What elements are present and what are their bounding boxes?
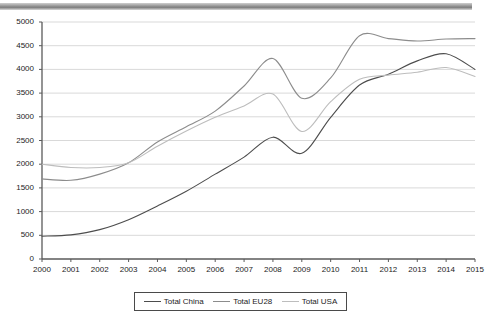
legend-item-eu28[interactable]: Total EU28 [213, 297, 272, 306]
y-axis-tick-label: 500 [4, 231, 34, 239]
legend-label-usa: Total USA [302, 297, 338, 306]
x-axis-tick-label: 2005 [170, 266, 202, 274]
x-axis-tick-label: 2008 [257, 266, 289, 274]
y-axis-tick-label: 3000 [4, 113, 34, 121]
x-axis-tick-label: 2011 [344, 266, 376, 274]
x-axis-tick-label: 2002 [84, 266, 116, 274]
y-axis-tick-label: 0 [4, 255, 34, 263]
x-axis-tick-label: 2014 [430, 266, 462, 274]
series-line-total-china [42, 54, 475, 237]
legend-swatch-china [144, 301, 161, 302]
x-axis-tick-label: 2001 [55, 266, 87, 274]
x-axis-tick-label: 2000 [26, 266, 58, 274]
x-axis-tick-label: 2004 [141, 266, 173, 274]
y-axis-tick-label: 2000 [4, 160, 34, 168]
y-axis-tick-label: 4000 [4, 65, 34, 73]
x-axis-tick-label: 2009 [286, 266, 318, 274]
chart-legend: Total China Total EU28 Total USA [134, 292, 347, 311]
x-axis-tick-label: 2007 [228, 266, 260, 274]
x-axis-tick-label: 2012 [372, 266, 404, 274]
x-axis-tick-label: 2013 [401, 266, 433, 274]
series-line-total-eu28 [42, 33, 475, 180]
x-axis-tick-label: 2003 [113, 266, 145, 274]
x-axis-tick-label: 2015 [459, 266, 489, 274]
legend-swatch-eu28 [213, 301, 230, 302]
y-axis-tick-label: 3500 [4, 89, 34, 97]
legend-label-eu28: Total EU28 [233, 297, 272, 306]
x-axis-tick-label: 2010 [315, 266, 347, 274]
legend-item-china[interactable]: Total China [144, 297, 204, 306]
y-axis-tick-label: 1000 [4, 208, 34, 216]
x-axis-tick-label: 2006 [199, 266, 231, 274]
y-axis-tick-label: 4500 [4, 42, 34, 50]
y-axis-tick-label: 1500 [4, 184, 34, 192]
legend-item-usa[interactable]: Total USA [282, 297, 338, 306]
series-line-total-usa [42, 67, 475, 168]
y-axis-tick-label: 5000 [4, 18, 34, 26]
y-axis-tick-label: 2500 [4, 137, 34, 145]
legend-label-china: Total China [164, 297, 204, 306]
legend-swatch-usa [282, 301, 299, 302]
